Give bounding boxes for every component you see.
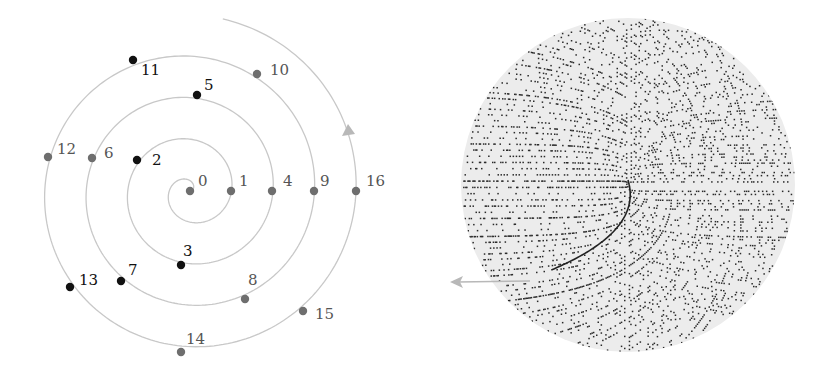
prime-dot	[193, 91, 201, 99]
composite-dot	[177, 348, 185, 356]
number-label: 0	[198, 172, 208, 190]
composite-dot	[268, 187, 276, 195]
prime-dot	[66, 283, 74, 291]
number-label: 10	[270, 61, 289, 79]
composite-dot	[227, 187, 235, 195]
number-label: 7	[128, 261, 138, 279]
number-label: 15	[315, 305, 334, 323]
composite-dot	[241, 295, 249, 303]
prime-dot	[177, 261, 185, 269]
sacks-spiral-disc	[450, 18, 795, 352]
composite-dot	[310, 187, 318, 195]
composite-dot	[299, 307, 307, 315]
number-label: 12	[57, 140, 76, 158]
prime-dot	[129, 56, 137, 64]
composite-dot	[186, 187, 194, 195]
number-label: 1	[239, 172, 249, 190]
prime-spiral-figure: 012345678910111213141516	[0, 0, 827, 383]
direction-arrow-icon	[342, 124, 355, 136]
number-label: 2	[152, 151, 162, 169]
composite-dot	[253, 70, 261, 78]
number-label: 11	[141, 61, 160, 79]
number-label: 3	[183, 242, 193, 260]
left-spiral-diagram: 012345678910111213141516	[44, 19, 385, 356]
composite-dot	[44, 153, 52, 161]
number-label: 6	[104, 144, 114, 162]
disc-background	[461, 18, 795, 352]
composite-dot	[352, 187, 360, 195]
number-label: 5	[204, 76, 214, 94]
composite-dot	[88, 154, 96, 162]
prime-dot	[133, 156, 141, 164]
number-label: 14	[186, 330, 205, 348]
number-label: 8	[248, 271, 258, 289]
number-label: 16	[366, 172, 385, 190]
prime-dot	[117, 277, 125, 285]
number-label: 9	[320, 172, 330, 190]
number-label: 13	[79, 271, 98, 289]
number-label: 4	[283, 172, 293, 190]
